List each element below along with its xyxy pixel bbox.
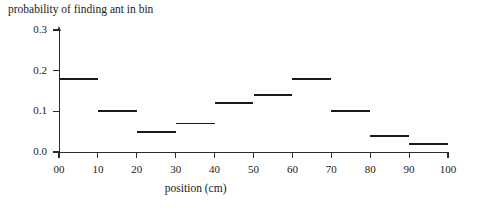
x-tick-mark	[409, 152, 410, 158]
x-tick-label: 00	[39, 163, 79, 175]
x-tick-mark	[136, 152, 137, 158]
x-tick-label: 60	[272, 163, 312, 175]
x-tick-mark	[331, 152, 332, 158]
y-tick-mark	[53, 111, 59, 112]
x-tick-label: 40	[195, 163, 235, 175]
histogram-bin	[292, 78, 331, 80]
histogram-bin	[59, 78, 98, 80]
histogram-bin	[215, 102, 254, 104]
x-tick-label: 100	[428, 163, 468, 175]
histogram-bin	[254, 94, 293, 96]
x-tick-mark	[175, 152, 176, 158]
y-tick-mark	[53, 70, 59, 71]
x-tick-mark	[253, 152, 254, 158]
x-tick-label: 10	[78, 163, 118, 175]
x-tick-label: 70	[311, 163, 351, 175]
x-tick-mark	[97, 152, 98, 158]
x-tick-mark	[292, 152, 293, 158]
histogram-bin	[137, 131, 176, 133]
y-tick-label: 0.0	[19, 146, 47, 157]
x-tick-label: 50	[234, 163, 274, 175]
x-tick-mark	[370, 152, 371, 158]
x-tick-label: 20	[117, 163, 157, 175]
histogram-bin	[98, 110, 137, 112]
histogram-bin	[331, 110, 370, 112]
histogram-bin	[370, 135, 409, 137]
x-tick-label: 90	[389, 163, 429, 175]
x-tick-mark	[214, 152, 215, 158]
y-tick-label: 0.3	[19, 24, 47, 35]
y-tick-mark	[53, 29, 59, 30]
chart-figure: probability of finding ant in bin 0.00.1…	[0, 0, 479, 209]
x-tick-label: 30	[156, 163, 196, 175]
x-axis-label: position (cm)	[79, 182, 312, 195]
x-tick-mark	[58, 152, 59, 158]
plot-area: 0.00.10.20.3 00102030405060708090100 pos…	[0, 0, 479, 209]
x-tick-mark	[447, 152, 448, 158]
x-tick-label: 80	[350, 163, 390, 175]
y-tick-label: 0.1	[19, 105, 47, 116]
y-axis-line	[59, 30, 60, 153]
histogram-bin	[176, 123, 215, 125]
y-tick-label: 0.2	[19, 65, 47, 76]
histogram-bin	[409, 143, 448, 145]
